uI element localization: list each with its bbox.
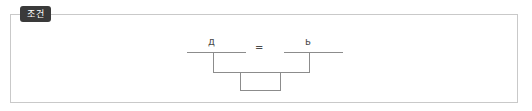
condition-tag: 조건 (20, 6, 51, 22)
condition-frame (10, 14, 518, 103)
